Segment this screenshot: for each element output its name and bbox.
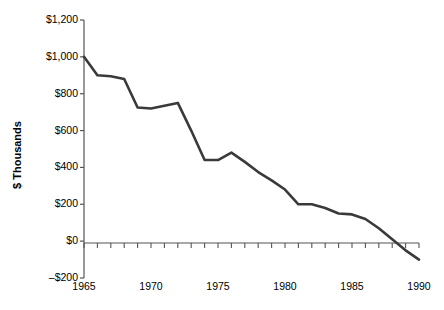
line-chart: $ Thousands $1,200$1,000$800$600$400$200…	[0, 0, 444, 310]
plot-area	[0, 0, 444, 310]
axis-lines	[84, 20, 419, 278]
x-axis-ticks	[84, 243, 419, 248]
data-series-line	[84, 57, 419, 260]
